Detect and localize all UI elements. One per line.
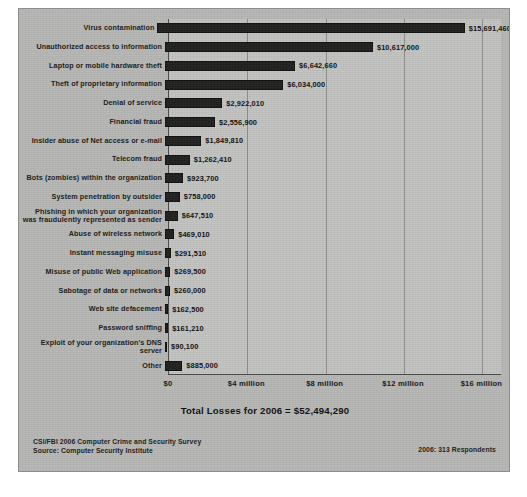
bar-row: Instant messaging misuse$291,510 xyxy=(19,244,510,263)
bar-row: Theft of proprietary information$6,034,0… xyxy=(19,75,510,94)
bar-row: Denial of service$2,922,010 xyxy=(19,94,510,113)
bar-value-label: $161,210 xyxy=(172,324,204,333)
bar-value-label: $291,510 xyxy=(175,249,207,258)
bar-row: Exploit of your organization's DNS serve… xyxy=(19,338,510,357)
bar-value-label: $885,000 xyxy=(186,361,218,370)
bar-value-label: $6,642,660 xyxy=(299,61,337,70)
category-label: Abuse of wireless network xyxy=(19,230,165,238)
bar-row: Web site defacement$162,500 xyxy=(19,300,510,319)
bar-value-label: $269,500 xyxy=(174,267,206,276)
category-label: System penetration by outsider xyxy=(19,193,165,201)
bar-row: Misuse of public Web application$269,500 xyxy=(19,263,510,282)
category-label: Insider abuse of Net access or e-mail xyxy=(19,137,165,145)
bar xyxy=(165,173,183,183)
bar-row: Unauthorized access to information$10,61… xyxy=(19,38,510,57)
bar-row: Bots (zombies) within the organization$9… xyxy=(19,169,510,188)
bar-row: Insider abuse of Net access or e-mail$1,… xyxy=(19,131,510,150)
category-label: Telecom fraud xyxy=(19,155,165,163)
category-label: Exploit of your organization's DNS serve… xyxy=(19,339,165,355)
bar xyxy=(165,342,167,352)
chart-page: Virus contamination$15,691,460Unauthoriz… xyxy=(0,0,527,497)
bar-container: $1,262,410 xyxy=(165,150,510,169)
bar-container: $291,510 xyxy=(165,244,510,263)
bar-container: $15,691,460 xyxy=(157,19,510,38)
bar-value-label: $260,000 xyxy=(174,286,206,295)
bar-container: $269,500 xyxy=(165,263,510,282)
bar-value-label: $1,262,410 xyxy=(194,155,232,164)
bar xyxy=(165,80,283,90)
bar-container: $469,010 xyxy=(165,225,510,244)
bar-value-label: $162,500 xyxy=(172,305,204,314)
category-label: Financial fraud xyxy=(19,118,165,126)
bar-rows: Virus contamination$15,691,460Unauthoriz… xyxy=(19,19,510,375)
bar-value-label: $6,034,000 xyxy=(287,80,325,89)
respondents-note: 2006: 313 Respondents xyxy=(418,446,496,453)
bar-value-label: $2,556,900 xyxy=(219,118,257,127)
bar-container: $6,642,660 xyxy=(165,56,510,75)
bar xyxy=(165,42,373,52)
bar xyxy=(165,229,174,239)
category-label: Sabotage of data or networks xyxy=(19,287,165,295)
bar-container: $2,556,900 xyxy=(165,113,510,132)
bar-value-label: $90,100 xyxy=(171,342,198,351)
bar xyxy=(165,155,190,165)
bar-row: System penetration by outsider$758,000 xyxy=(19,188,510,207)
category-label: Misuse of public Web application xyxy=(19,268,165,276)
bar-row: Virus contamination$15,691,460 xyxy=(19,19,510,38)
bar-value-label: $1,849,810 xyxy=(205,136,243,145)
bar-row: Financial fraud$2,556,900 xyxy=(19,113,510,132)
category-label: Instant messaging misuse xyxy=(19,249,165,257)
bar xyxy=(165,136,201,146)
category-label: Other xyxy=(19,362,165,370)
bar-row: Password sniffing$161,210 xyxy=(19,319,510,338)
x-tick-label: $4 million xyxy=(228,379,265,388)
bar-container: $885,000 xyxy=(165,356,510,375)
bar-container: $758,000 xyxy=(165,188,510,207)
bar-container: $10,617,000 xyxy=(165,38,510,57)
x-tick-label: $0 xyxy=(164,379,173,388)
bar-value-label: $469,010 xyxy=(178,230,210,239)
bar-row: Abuse of wireless network$469,010 xyxy=(19,225,510,244)
bar xyxy=(165,323,168,333)
bar xyxy=(165,211,178,221)
bar-container: $647,510 xyxy=(165,206,510,225)
category-label: Bots (zombies) within the organization xyxy=(19,174,165,182)
bar-container: $90,100 xyxy=(165,338,510,357)
bar xyxy=(165,267,170,277)
bar-container: $161,210 xyxy=(165,319,510,338)
bar xyxy=(165,248,171,258)
bar-container: $162,500 xyxy=(165,300,510,319)
bar-value-label: $647,510 xyxy=(182,211,214,220)
bar-value-label: $758,000 xyxy=(184,192,216,201)
bar xyxy=(165,117,215,127)
survey-source: Source: Computer Security Institute xyxy=(33,446,201,455)
total-losses-annotation: Total Losses for 2006 = $52,494,290 xyxy=(19,405,510,416)
category-label: Password sniffing xyxy=(19,324,165,332)
bar xyxy=(165,61,295,71)
chart-panel: Virus contamination$15,691,460Unauthoriz… xyxy=(18,8,510,472)
bar-row: Laptop or mobile hardware theft$6,642,66… xyxy=(19,56,510,75)
x-tick-label: $8 million xyxy=(306,379,343,388)
bar-row: Sabotage of data or networks$260,000 xyxy=(19,281,510,300)
bar-row: Other$885,000 xyxy=(19,356,510,375)
x-axis-tick-labels: $0$4 million$8 million$12 million$16 mil… xyxy=(168,379,501,395)
category-label: Unauthorized access to information xyxy=(19,43,165,51)
bar xyxy=(157,23,464,33)
bar-chart: Virus contamination$15,691,460Unauthoriz… xyxy=(19,9,510,391)
bar-container: $260,000 xyxy=(165,281,510,300)
x-tick-label: $16 million xyxy=(461,379,502,388)
bar xyxy=(165,98,222,108)
source-note: CSI/FBI 2006 Computer Crime and Security… xyxy=(33,437,201,455)
category-label: Phishing in which your organization was … xyxy=(19,208,165,224)
x-tick-label: $12 million xyxy=(382,379,423,388)
category-label: Web site defacement xyxy=(19,305,165,313)
bar xyxy=(165,361,182,371)
bar-container: $1,849,810 xyxy=(165,131,510,150)
category-label: Theft of proprietary information xyxy=(19,80,165,88)
bar xyxy=(165,192,180,202)
bar-value-label: $2,922,010 xyxy=(226,99,264,108)
category-label: Laptop or mobile hardware theft xyxy=(19,62,165,70)
category-label: Denial of service xyxy=(19,99,165,107)
category-label: Virus contamination xyxy=(19,24,157,32)
bar-container: $2,922,010 xyxy=(165,94,510,113)
